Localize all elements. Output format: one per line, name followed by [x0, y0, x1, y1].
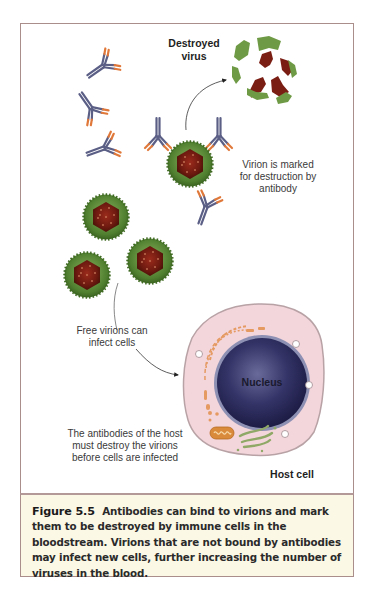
label-line: antibody [228, 183, 328, 195]
label-antibodies-host: The antibodies of the host must destroy … [55, 428, 195, 465]
label-line: for destruction by [228, 171, 328, 183]
free-virions [65, 195, 173, 298]
label-line: before cells are infected [55, 452, 195, 464]
label-virion-marked: Virion is marked for destruction by anti… [228, 159, 328, 196]
figure-caption: Figure 5.5 Antibodies can bind to virion… [20, 493, 354, 577]
label-line: infect cells [62, 337, 162, 349]
label-nucleus: Nucleus [232, 376, 292, 389]
label-free-virions: Free virions can infect cells [62, 325, 162, 349]
trailing-body-text: ... [24, 596, 354, 603]
label-line: virus [158, 50, 230, 63]
connector-line [114, 283, 118, 330]
label-line: must destroy the virions [55, 440, 195, 452]
label-host-cell: Host cell [252, 468, 332, 481]
label-line: Destroyed [158, 37, 230, 50]
free-antibodies [70, 47, 122, 166]
destroyed-virus-icon [232, 36, 297, 104]
figure-number: Figure 5.5 [32, 505, 95, 518]
infect-arrow [136, 349, 178, 375]
label-line: Virion is marked [228, 159, 328, 171]
label-destroyed-virus: Destroyed virus [158, 37, 230, 63]
label-line: Free virions can [62, 325, 162, 337]
marked-virion [145, 118, 232, 228]
label-line: The antibodies of the host [55, 428, 195, 440]
